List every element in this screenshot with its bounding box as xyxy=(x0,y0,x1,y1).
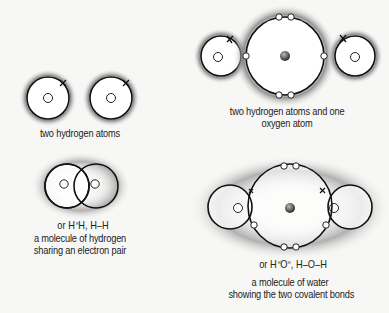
formula-prefix: or H xyxy=(57,219,74,231)
electron-dots-right: ⨯ xyxy=(287,260,291,266)
oxygen-atom xyxy=(233,4,337,108)
hydrogen-atom-right xyxy=(328,185,372,229)
caption-two-hydrogen-atoms: two hydrogen atoms xyxy=(36,127,124,139)
formula-center: O xyxy=(280,258,287,270)
formula-suffix: , H–O–H xyxy=(291,258,327,270)
caption-hydrogen-molecule-line1: a molecule of hydrogen xyxy=(27,232,133,244)
caption-water-molecule-line2: showing the two covalent bonds xyxy=(228,288,351,300)
caption-hydrogen-molecule-line2: sharing an electron pair xyxy=(27,244,133,256)
caption-hydrogen-oxygen-line1: two hydrogen atoms and one xyxy=(230,105,344,117)
panel-hydrogen-molecule xyxy=(31,152,131,220)
panel-hydrogen-and-oxygen-atoms xyxy=(193,4,383,108)
hydrogen-atom-left xyxy=(19,69,77,127)
panel-two-hydrogen-atoms xyxy=(19,69,140,127)
caption-hydrogen-oxygen-line2: oxygen atom xyxy=(230,117,344,129)
hydrogen-molecule-formula: or H⨯H, H–H xyxy=(52,219,114,233)
electron-pair-dots: ⨯ xyxy=(75,221,79,227)
panel-water-molecule xyxy=(190,156,389,260)
formula-suffix: H, H–H xyxy=(78,219,108,231)
electron-dots-left: ⨯ xyxy=(277,260,281,266)
hydrogen-atom-left xyxy=(208,185,252,229)
hydrogen-atom-right xyxy=(82,69,140,127)
formula-prefix: or H xyxy=(259,258,276,270)
caption-water-molecule-line1: a molecule of water xyxy=(237,276,343,288)
hydrogen-atom-right xyxy=(327,28,383,84)
water-molecule-formula: or H⨯O⨯, H–O–H xyxy=(253,258,332,272)
